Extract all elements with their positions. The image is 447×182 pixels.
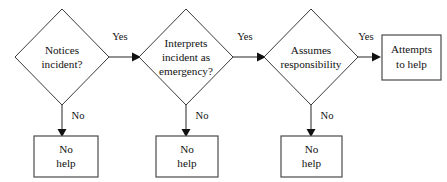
edge-label-yes: Yes xyxy=(358,31,373,42)
decision-label-line-1: Notices xyxy=(45,44,79,56)
outcome-label-line-2: help xyxy=(302,157,322,169)
arrowhead-right xyxy=(372,53,381,62)
outcome-label-line-2: help xyxy=(56,157,76,169)
outcome-label-line-2: to help xyxy=(396,58,427,70)
outcome-label-line-2: help xyxy=(177,157,197,169)
decision-node-notices-incident: Notices incident? xyxy=(15,9,109,105)
flowchart-canvas: Notices incident? Yes No No help Interpr… xyxy=(0,0,447,182)
flowchart-diagram: Notices incident? Yes No No help Interpr… xyxy=(0,0,447,182)
outcome-label-line-1: No xyxy=(180,143,194,155)
decision-label-line-1: Interprets xyxy=(165,37,208,49)
edge-label-yes: Yes xyxy=(237,31,252,42)
edge-yes-3: Yes xyxy=(358,31,381,61)
outcome-label-line-1: Attempts xyxy=(391,43,432,55)
decision-label-line-1: Assumes xyxy=(291,44,331,56)
edge-no-2: No xyxy=(182,105,209,137)
edge-yes-1: Yes xyxy=(109,31,141,61)
outcome-label-line-1: No xyxy=(59,143,73,155)
outcome-label-line-1: No xyxy=(305,143,319,155)
decision-node-interprets-emergency: Interprets incident as emergency? xyxy=(139,9,233,105)
outcome-node-attempts-to-help: Attempts to help xyxy=(382,35,441,80)
edge-label-no: No xyxy=(72,110,85,121)
decision-label-line-3: emergency? xyxy=(159,65,213,77)
edge-label-no: No xyxy=(321,110,334,121)
outcome-node-no-help-2: No help xyxy=(156,136,218,177)
decision-label-line-2: responsibility xyxy=(281,58,342,70)
edge-label-yes: Yes xyxy=(112,31,127,42)
outcome-node-no-help-1: No help xyxy=(34,136,98,177)
edge-no-1: No xyxy=(58,105,85,137)
edge-no-3: No xyxy=(307,105,334,137)
decision-label-line-2: incident? xyxy=(41,58,82,70)
decision-label-line-2: incident as xyxy=(162,51,210,63)
edge-label-no: No xyxy=(196,110,209,121)
edge-yes-2: Yes xyxy=(233,31,266,61)
outcome-node-no-help-3: No help xyxy=(281,136,342,177)
decision-node-assumes-responsibility: Assumes responsibility xyxy=(264,9,358,105)
